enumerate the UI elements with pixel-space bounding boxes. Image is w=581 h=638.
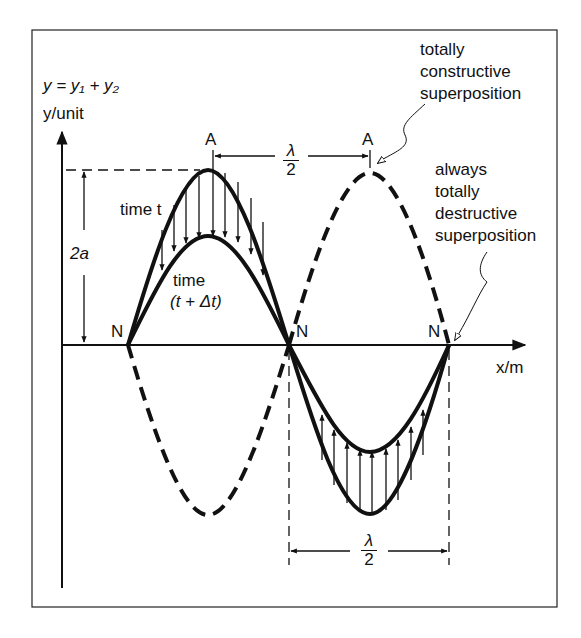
trough-time-t — [289, 345, 449, 514]
destructive-note-line1: always — [435, 160, 487, 180]
node-label-1: N — [111, 322, 123, 342]
equation-label: y = y₁ + y₂ — [43, 76, 119, 96]
dashed-trough-left — [128, 345, 289, 515]
figure-frame — [32, 30, 557, 607]
antinode-label-right: A — [362, 130, 373, 150]
destructive-note-line2: totally — [435, 182, 479, 202]
crest-time-t-plus-dt — [128, 236, 289, 345]
antinode-label-left: A — [205, 130, 216, 150]
time-later-label-line1: time — [173, 271, 205, 291]
dashed-crest-right — [289, 173, 449, 345]
destructive-note-line3: destructive — [435, 204, 517, 224]
constructive-leader-line — [378, 104, 425, 163]
half-wavelength-top: λ 2 — [283, 142, 299, 179]
node-label-3: N — [428, 322, 440, 342]
node-label-2: N — [296, 322, 308, 342]
trough-time-t-plus-dt — [289, 345, 449, 452]
amplitude-label: 2a — [70, 244, 89, 264]
half-wavelength-bottom: λ 2 — [361, 532, 377, 569]
time-t-label: time t — [120, 200, 162, 220]
destructive-note-line4: superposition — [435, 226, 536, 246]
x-axis-label: x/m — [496, 358, 523, 378]
time-later-label-line2: (t + Δt) — [170, 292, 222, 312]
constructive-note-line1: totally — [420, 40, 464, 60]
constructive-note-line2: constructive — [420, 62, 511, 82]
constructive-note-line3: superposition — [420, 84, 521, 104]
crest-time-t — [128, 170, 289, 345]
y-axis-label: y/unit — [43, 104, 84, 124]
destructive-leader-line — [455, 252, 487, 340]
